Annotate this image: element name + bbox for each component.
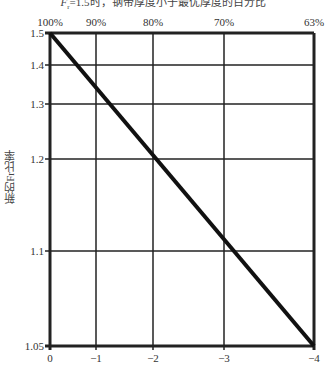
- x-top-tick-label: 80%: [143, 16, 163, 28]
- x-tick-label: 0: [47, 352, 53, 364]
- y-tick-label: 1.05: [25, 340, 45, 352]
- y-tick-label: 1.2: [30, 153, 44, 165]
- x-tick-label: −1: [90, 352, 102, 364]
- data-series: [50, 33, 314, 346]
- x-top-tick-label: 70%: [214, 16, 234, 28]
- y-tick-label: 1.1: [30, 245, 44, 257]
- tick-labels: 1.51.41.31.21.11.050100%−190%−280%−370%−…: [25, 16, 324, 364]
- y-tick-label: 1.4: [30, 59, 44, 71]
- y-tick-label: 1.5: [30, 27, 44, 39]
- y-tick-label: 1.3: [30, 98, 44, 110]
- x-tick-label: −3: [218, 352, 230, 364]
- x-tick-label: −4: [308, 352, 320, 364]
- grid-lines: [45, 33, 314, 350]
- chart-plot: 1.51.41.31.21.11.050100%−190%−280%−370%−…: [0, 0, 326, 372]
- series-line: [50, 33, 314, 346]
- x-top-tick-label: 100%: [37, 16, 63, 28]
- x-top-tick-label: 90%: [86, 16, 106, 28]
- x-top-tick-label: 63%: [304, 16, 324, 28]
- x-tick-label: −2: [147, 352, 159, 364]
